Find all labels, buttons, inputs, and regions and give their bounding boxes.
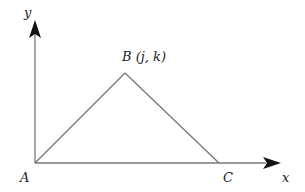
- point-b-label: B (j, k): [121, 49, 166, 64]
- triangle-diagram: y x B (j, k) A C: [0, 0, 305, 192]
- point-a-label: A: [19, 170, 29, 185]
- x-axis-label: x: [282, 170, 290, 185]
- side-ab: [35, 73, 125, 163]
- side-bc: [125, 73, 219, 163]
- y-axis-label: y: [23, 5, 32, 20]
- point-c-label: C: [223, 170, 233, 185]
